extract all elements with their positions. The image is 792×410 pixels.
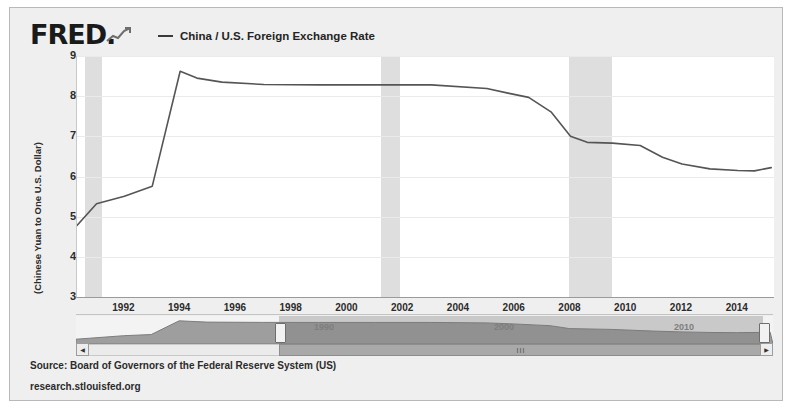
sparkline-icon — [106, 26, 132, 44]
chart-legend[interactable]: China / U.S. Foreign Exchange Rate — [158, 30, 375, 42]
left-arrow-icon[interactable]: ◀ — [76, 343, 89, 356]
right-range-handle-icon[interactable] — [759, 323, 770, 343]
x-tick-2004: 2004 — [447, 302, 469, 313]
source-note: Source: Board of Governors of the Federa… — [30, 360, 336, 371]
x-tick-2010: 2010 — [614, 302, 636, 313]
left-range-handle-icon[interactable] — [275, 323, 286, 343]
chart-header: FRED. China / U.S. Foreign Exchange Rate — [10, 8, 782, 52]
x-tick-2014: 2014 — [726, 302, 748, 313]
plot-canvas[interactable] — [76, 56, 774, 298]
x-tick-1992: 1992 — [112, 302, 134, 313]
chart-card: FRED. China / U.S. Foreign Exchange Rate… — [9, 7, 783, 401]
line-swatch-icon — [158, 35, 173, 37]
y-axis-ticks: 9876543 — [48, 52, 76, 300]
x-tick-1998: 1998 — [280, 302, 302, 313]
slider-thumb[interactable]: III — [279, 344, 763, 356]
y-tick-7: 7 — [50, 129, 76, 141]
right-arrow-icon[interactable]: ▶ — [760, 343, 773, 356]
y-tick-8: 8 — [50, 89, 76, 101]
y-axis-label: (Chinese Yuan to One U.S. Dollar) — [32, 280, 43, 294]
x-tick-2008: 2008 — [558, 302, 580, 313]
fred-chart-screenshot: FRED. China / U.S. Foreign Exchange Rate… — [0, 0, 792, 410]
x-tick-2002: 2002 — [391, 302, 413, 313]
grip-icon: III — [517, 348, 526, 354]
y-tick-6: 6 — [50, 170, 76, 182]
x-tick-1994: 1994 — [168, 302, 190, 313]
slider-decade-label-2000: 2000 — [494, 322, 514, 332]
y-tick-3: 3 — [50, 290, 76, 302]
x-tick-2006: 2006 — [503, 302, 525, 313]
slider-divider — [76, 314, 773, 315]
site-url[interactable]: research.stlouisfed.org — [30, 381, 141, 392]
x-tick-2012: 2012 — [670, 302, 692, 313]
series-line — [77, 56, 774, 297]
y-tick-5: 5 — [50, 210, 76, 222]
fred-logo-text: FRED — [30, 19, 106, 50]
legend-series-label: China / U.S. Foreign Exchange Rate — [180, 30, 375, 42]
x-tick-1996: 1996 — [224, 302, 246, 313]
fred-logo[interactable]: FRED. — [30, 21, 115, 48]
chart-area: (Chinese Yuan to One U.S. Dollar) 987654… — [10, 52, 782, 314]
slider-decade-label-2010: 2010 — [674, 322, 694, 332]
y-tick-9: 9 — [50, 49, 76, 61]
y-tick-4: 4 — [50, 250, 76, 262]
x-tick-2000: 2000 — [335, 302, 357, 313]
range-slider[interactable]: III ◀ ▶ 199020002010 — [76, 314, 773, 356]
slider-decade-label-1990: 1990 — [314, 322, 334, 332]
